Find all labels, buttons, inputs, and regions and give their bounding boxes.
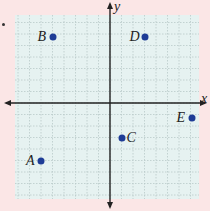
point-a-marker [38,157,45,164]
point-e-label: E [177,111,186,125]
point-c-label: C [127,131,136,145]
point-b-marker [49,34,56,41]
y-axis-label: y [114,0,120,14]
point-a-label: A [26,154,35,168]
x-axis-label: x [201,92,207,106]
point-d-label: D [130,30,140,44]
point-b-label: B [38,30,47,44]
point-d-marker [141,34,148,41]
point-c-marker [118,134,125,141]
point-e-marker [188,114,195,121]
grid-and-axes [0,0,210,211]
coordinate-plane: x y ABCDE [0,0,210,211]
